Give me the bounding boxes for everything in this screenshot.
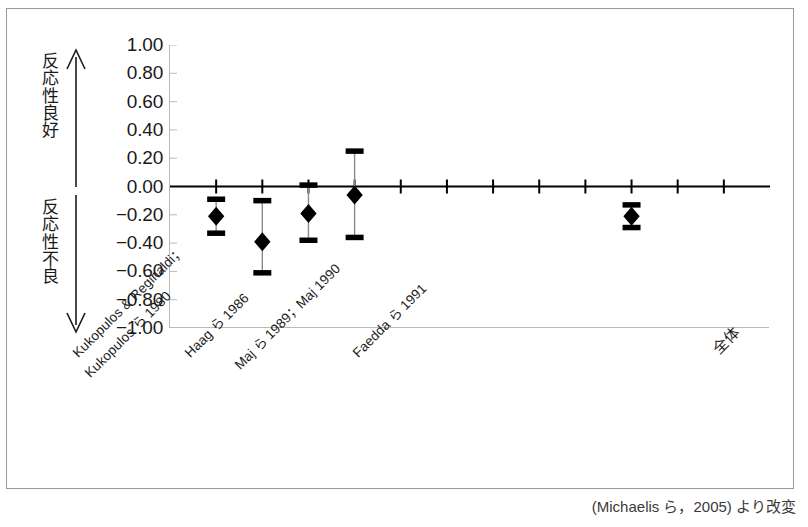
data-point-group [299, 185, 317, 240]
data-point-marker-diamond[interactable] [300, 204, 316, 223]
plot-area [169, 45, 769, 328]
y-axis-tick-label: −0.40 [101, 233, 163, 252]
y-axis-tick-label: 0.80 [101, 63, 163, 82]
data-point-marker-diamond[interactable] [254, 232, 270, 251]
axis-annotation-poor-text: 反応性不良 [37, 199, 63, 286]
data-point-group [253, 201, 271, 273]
data-point-group [207, 199, 225, 233]
figure-frame: 反応性良好 反応性不良 1.000.800.600.400.200.00−0.2… [6, 8, 794, 489]
y-axis-tick-label: −0.80 [101, 290, 163, 309]
data-point-marker-diamond[interactable] [208, 207, 224, 226]
y-axis-tick-label: −0.60 [101, 261, 163, 280]
y-axis-tick-label: 0.00 [101, 177, 163, 196]
data-point-marker-diamond[interactable] [346, 185, 362, 204]
y-axis-tick-label: −0.20 [101, 205, 163, 224]
axis-annotation-good-text: 反応性良好 [37, 53, 63, 140]
axis-annotation-good-response: 反応性良好 [37, 53, 63, 140]
y-axis-tick-label: 0.20 [101, 148, 163, 167]
axis-annotation-poor-response: 反応性不良 [37, 199, 63, 286]
y-axis-tick-label: −1.00 [101, 318, 163, 337]
arrow-up-icon [65, 47, 87, 191]
y-axis-tick-label: 1.00 [101, 35, 163, 54]
arrow-down-icon [65, 195, 87, 339]
data-point-group [623, 205, 641, 228]
y-axis-tick-label: 0.40 [101, 120, 163, 139]
y-axis-tick-labels: 1.000.800.600.400.200.00−0.20−0.40−0.60−… [91, 45, 163, 328]
y-axis-tick-label: 0.60 [101, 92, 163, 111]
data-point-marker-diamond[interactable] [623, 207, 639, 226]
figure-caption: (Michaelis ら，2005) より改変 [6, 494, 802, 518]
data-point-group [346, 151, 364, 237]
figure-root: 反応性良好 反応性不良 1.000.800.600.400.200.00−0.2… [0, 0, 808, 527]
forest-plot-svg [170, 45, 770, 328]
